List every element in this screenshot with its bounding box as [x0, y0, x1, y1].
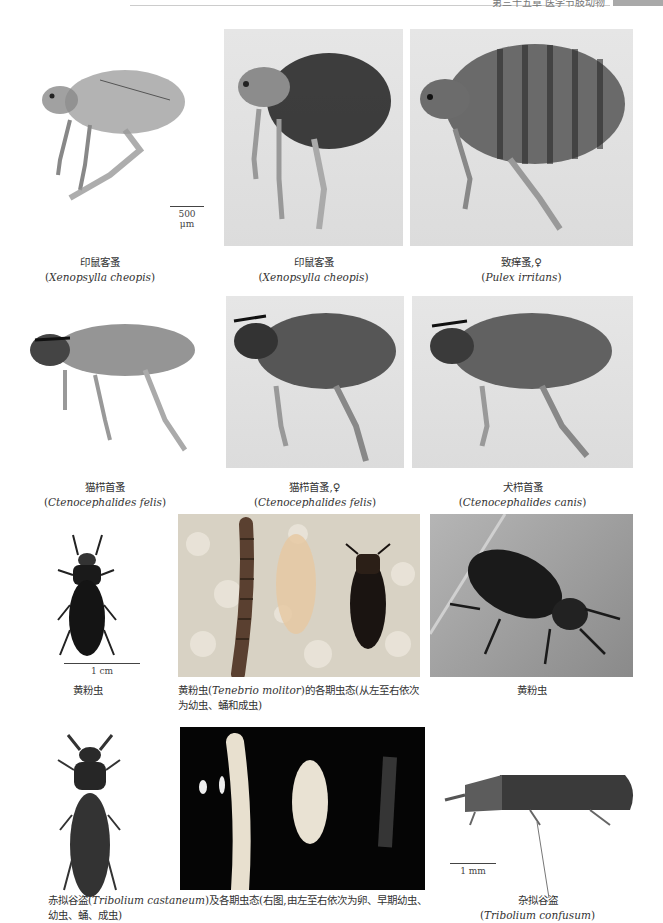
caption-fig10: 赤拟谷盗(Tribolium castaneum)及各期虫态(右图,由左至右依次…: [48, 893, 433, 923]
flea-illustration: [30, 40, 190, 205]
caption-fig7: 黄粉虫: [48, 683, 128, 698]
caption-fig3: 致痒蚤,♀ (Pulex irritans): [410, 255, 633, 285]
scale-bar-1mm: 1 mm: [450, 863, 496, 876]
caption-fig4: 猫栉首蚤 (Ctenocephalides felis): [10, 480, 200, 510]
caption-fig1: 印鼠客蚤 (Xenopsylla cheopis): [10, 255, 190, 285]
figure-ctenocephalides-felis-2: [226, 296, 404, 468]
caption-fig9: 黄粉虫: [430, 683, 633, 698]
figure-tribolium-stages: [180, 727, 425, 890]
figure-xenopsylla-cheopis-2: [224, 29, 403, 246]
flea-illustration: [224, 29, 403, 246]
figure-tenebrio-stages: [178, 514, 420, 677]
life-stages-illustration: [180, 727, 425, 890]
caption-fig8: 黄粉虫(Tenebrio molitor)的各期虫态(从左至右依次为幼虫、蛹和成…: [178, 683, 423, 713]
beetle-illustration: [430, 514, 633, 677]
life-stages-illustration: [178, 514, 420, 677]
caption-fig12: 杂拟谷盗 (Tribolium confusum): [440, 893, 635, 923]
flea-illustration: [25, 310, 200, 460]
figure-ctenocephalides-canis: [412, 296, 633, 468]
figure-pulex-irritans: [410, 29, 633, 246]
caption-fig5: 猫栉首蚤,♀ (Ctenocephalides felis): [226, 480, 404, 510]
scale-bar-500um: 500 μm: [170, 206, 204, 229]
figure-tribolium-castaneum: [50, 730, 130, 900]
leader-line: [535, 820, 555, 900]
caption-fig2: 印鼠客蚤 (Xenopsylla cheopis): [224, 255, 403, 285]
figure-tenebrio-adult: [48, 530, 128, 660]
page-number-tab: [613, 0, 663, 6]
scale-bar-1cm: 1 cm: [64, 663, 140, 676]
beetle-illustration: [48, 530, 128, 660]
beetle-illustration: [50, 730, 130, 900]
figure-xenopsylla-cheopis-1: [30, 40, 190, 205]
caption-fig6: 犬栉首蚤 (Ctenocephalides canis): [412, 480, 633, 510]
figure-tenebrio-on-wood: [430, 514, 633, 677]
flea-illustration: [412, 296, 633, 468]
flea-illustration: [410, 29, 633, 246]
flea-illustration: [226, 296, 404, 468]
running-title: 第三十五章 医学节肢动物: [492, 0, 605, 9]
figure-ctenocephalides-felis-1: [25, 310, 200, 460]
